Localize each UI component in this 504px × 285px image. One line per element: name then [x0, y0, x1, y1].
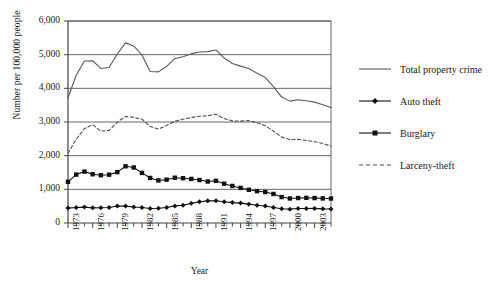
x-axis-title: Year: [68, 266, 331, 276]
series-marker-2: [329, 196, 333, 200]
series-line-0: [68, 43, 331, 108]
x-tick-label: 1979: [121, 213, 130, 231]
series-marker-2: [263, 190, 267, 194]
series-marker-1: [74, 205, 79, 210]
series-marker-1: [189, 201, 194, 206]
series-marker-2: [255, 189, 259, 193]
series-line-2: [68, 166, 331, 198]
chart-figure: Number per 100,000 people Year 01,0002,0…: [0, 0, 504, 285]
series-marker-2: [164, 177, 168, 181]
series-marker-2: [107, 172, 111, 176]
series-marker-1: [230, 200, 235, 205]
series-marker-2: [288, 196, 292, 200]
x-tick-label: 1973: [72, 213, 81, 231]
y-tick-label: 6,000: [20, 16, 60, 26]
x-tick-label: 1997: [269, 213, 278, 231]
series-marker-2: [271, 192, 275, 196]
series-marker-1: [246, 202, 251, 207]
x-tick-label: 1976: [97, 213, 106, 231]
x-tick-label: 1985: [171, 213, 180, 231]
series-marker-2: [206, 179, 210, 183]
series-marker-1: [66, 206, 71, 211]
series-marker-1: [222, 199, 227, 204]
series-marker-1: [263, 203, 268, 208]
legend-swatch-icon: [358, 63, 392, 75]
series-marker-1: [172, 203, 177, 208]
series-marker-2: [90, 172, 94, 176]
series-marker-1: [107, 205, 112, 210]
x-tick-label: 2000: [294, 213, 303, 231]
series-marker-2: [189, 177, 193, 181]
series-marker-1: [238, 201, 243, 206]
legend-swatch-icon: [358, 159, 392, 171]
series-marker-2: [247, 188, 251, 192]
chart-legend: Total property crimeAuto theftBurglaryLa…: [358, 54, 504, 182]
series-marker-2: [230, 184, 234, 188]
y-tick-label: 5,000: [20, 50, 60, 60]
series-marker-2: [197, 178, 201, 182]
legend-swatch-icon: [358, 95, 392, 107]
series-marker-1: [156, 206, 161, 211]
series-marker-2: [304, 196, 308, 200]
legend-label: Larceny-theft: [400, 160, 454, 171]
series-marker-2: [74, 172, 78, 176]
series-marker-2: [148, 176, 152, 180]
series-marker-2: [238, 186, 242, 190]
series-marker-1: [287, 207, 292, 212]
series-marker-2: [156, 178, 160, 182]
series-marker-1: [181, 203, 186, 208]
series-marker-2: [140, 171, 144, 175]
series-marker-1: [148, 206, 153, 211]
series-marker-2: [115, 170, 119, 174]
series-marker-1: [213, 198, 218, 203]
legend-label: Burglary: [400, 128, 435, 139]
series-marker-2: [173, 176, 177, 180]
series-marker-1: [131, 205, 136, 210]
x-tick-label: 1994: [245, 213, 254, 231]
series-marker-2: [312, 196, 316, 200]
x-tick-label: 1991: [220, 213, 229, 231]
series-line-3: [68, 114, 331, 153]
x-tick-label: 1988: [195, 213, 204, 231]
series-marker-2: [222, 181, 226, 185]
x-tick-label: 2003: [319, 213, 328, 231]
series-marker-1: [139, 205, 144, 210]
series-marker-1: [320, 206, 325, 211]
series-marker-1: [312, 206, 317, 211]
series-marker-2: [296, 196, 300, 200]
series-marker-1: [115, 203, 120, 208]
x-tick-label: 1982: [146, 213, 155, 231]
series-marker-1: [329, 206, 334, 211]
legend-label: Total property crime: [400, 64, 482, 75]
series-marker-2: [123, 164, 127, 168]
series-marker-2: [99, 173, 103, 177]
series-marker-1: [164, 205, 169, 210]
series-marker-1: [205, 198, 210, 203]
series-marker-2: [66, 180, 70, 184]
y-tick-label: 1,000: [20, 185, 60, 195]
y-tick-label: 4,000: [20, 84, 60, 94]
series-marker-1: [279, 206, 284, 211]
series-marker-1: [296, 206, 301, 211]
series-marker-1: [271, 205, 276, 210]
series-marker-2: [321, 196, 325, 200]
legend-item-1: Auto theft: [358, 86, 504, 116]
legend-item-0: Total property crime: [358, 54, 504, 84]
legend-item-3: Larceny-theft: [358, 150, 504, 180]
series-marker-1: [304, 206, 309, 211]
y-tick-label: 0: [20, 218, 60, 228]
series-marker-2: [82, 169, 86, 173]
series-marker-1: [197, 199, 202, 204]
series-marker-1: [82, 205, 87, 210]
series-marker-2: [279, 195, 283, 199]
y-tick-label: 2,000: [20, 151, 60, 161]
legend-label: Auto theft: [400, 96, 441, 107]
series-marker-1: [255, 203, 260, 208]
series-marker-1: [123, 204, 128, 209]
legend-item-2: Burglary: [358, 118, 504, 148]
series-marker-1: [98, 205, 103, 210]
series-marker-2: [132, 165, 136, 169]
legend-swatch-icon: [358, 127, 392, 139]
series-marker-1: [90, 205, 95, 210]
y-tick-label: 3,000: [20, 117, 60, 127]
